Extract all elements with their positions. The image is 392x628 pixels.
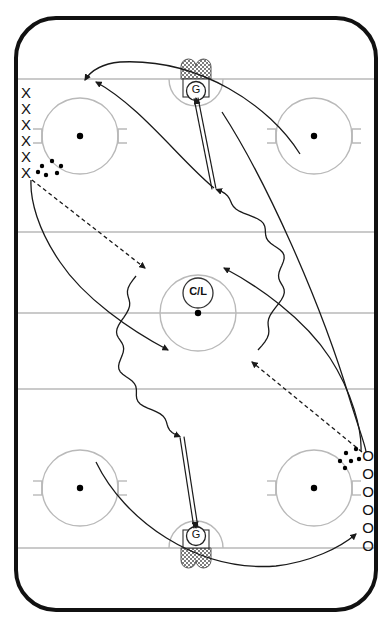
goalie-label-bottom-goal: G bbox=[176, 529, 216, 540]
player-marker-x-line-5: X bbox=[6, 149, 46, 164]
player-marker-o-line-4: O bbox=[348, 502, 388, 517]
player-marker-x-line-4: X bbox=[6, 133, 46, 148]
puck-dot bbox=[59, 164, 63, 168]
player-marker-o-line-3: O bbox=[348, 484, 388, 499]
player-marker-o-line-6: O bbox=[348, 538, 388, 553]
player-marker-o-line-5: O bbox=[348, 520, 388, 535]
puck-dot bbox=[50, 159, 54, 163]
puck-dot bbox=[343, 466, 347, 470]
player-marker-x-line-3: X bbox=[6, 117, 46, 132]
puck-dot bbox=[55, 171, 59, 175]
goalie-label-top-goal: G bbox=[176, 84, 216, 95]
faceoff-dot bbox=[311, 133, 317, 139]
puck-dot bbox=[338, 459, 342, 463]
player-marker-x-line-6: X bbox=[6, 165, 46, 180]
player-marker-o-line-1: O bbox=[348, 448, 388, 463]
faceoff-dot bbox=[77, 133, 83, 139]
hockey-drill-diagram: XXXXXXOOOOOOGGC/L bbox=[0, 0, 392, 628]
player-marker-o-line-2: O bbox=[348, 466, 388, 481]
center-line-marker-label: C/L bbox=[178, 286, 218, 297]
player-marker-x-line-1: X bbox=[6, 85, 46, 100]
faceoff-dot bbox=[195, 310, 201, 316]
faceoff-dot bbox=[311, 485, 317, 491]
faceoff-dot bbox=[77, 485, 83, 491]
shot-arrowhead bbox=[195, 523, 196, 528]
player-marker-x-line-2: X bbox=[6, 101, 46, 116]
